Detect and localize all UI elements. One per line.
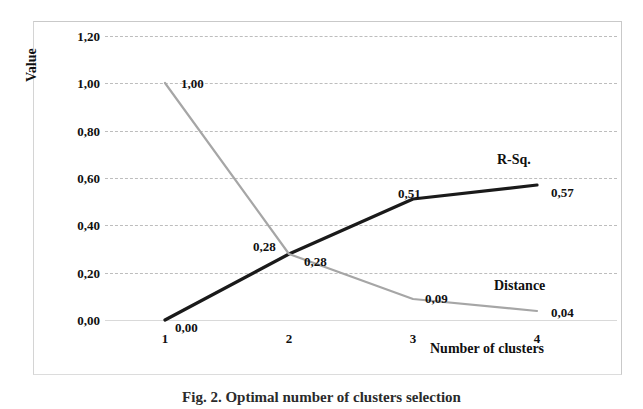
x-tick-label-2: 2 [274, 332, 304, 345]
point-label-r-sq-4: 0,57 [551, 186, 574, 199]
point-label-distance-1: 1,00 [181, 77, 204, 90]
y-axis-title-text: Value [24, 48, 40, 82]
point-label-r-sq-1: 0,00 [175, 321, 198, 334]
x-tick-label-3: 3 [398, 332, 428, 345]
gridline-0-60 [105, 178, 617, 179]
y-axis-title: Value [24, 0, 40, 28]
y-tick-label-1-00: 1,00 [46, 77, 100, 90]
y-tick-label-0-40: 0,40 [46, 219, 100, 232]
y-tick-label-0-60: 0,60 [46, 172, 100, 185]
chart-frame [33, 21, 622, 375]
y-tick-label-0-20: 0,20 [46, 267, 100, 280]
series-label-distance: Distance [494, 278, 545, 294]
figure: 1,20 1,00 0,80 0,60 0,40 0,20 0,00 1 2 3… [0, 0, 643, 409]
gridline-0-80 [105, 131, 617, 132]
y-tick-label-0-00: 0,00 [46, 314, 100, 327]
y-tick-label-0-80: 0,80 [46, 125, 100, 138]
series-label-r-sq: R-Sq. [497, 152, 531, 168]
gridline-0-20 [105, 273, 617, 274]
point-label-distance-3: 0,09 [425, 292, 448, 305]
y-tick-label-1-20: 1,20 [46, 30, 100, 43]
gridline-1-20 [105, 36, 617, 37]
point-label-r-sq-3: 0,51 [398, 187, 421, 200]
gridline-0-40 [105, 225, 617, 226]
point-label-r-sq-2: 0,28 [253, 240, 276, 253]
x-axis-title: Number of clusters [430, 341, 544, 357]
point-label-distance-4: 0,04 [551, 306, 574, 319]
figure-caption: Fig. 2. Optimal number of clusters selec… [0, 389, 643, 406]
point-label-distance-2: 0,28 [304, 255, 327, 268]
